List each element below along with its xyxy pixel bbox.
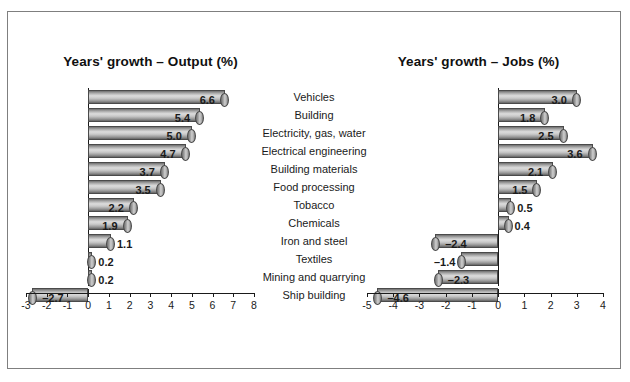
bar: 2.1 bbox=[498, 162, 553, 176]
axis-rule bbox=[26, 293, 254, 294]
bar: 3.0 bbox=[498, 90, 577, 104]
axis-tick-label: -3 bbox=[407, 299, 431, 311]
category-label: Building bbox=[256, 106, 372, 124]
bar-end-cap bbox=[434, 273, 443, 287]
bar-end-cap bbox=[457, 255, 466, 269]
bar: 3.5 bbox=[88, 180, 161, 194]
bar: 3.6 bbox=[498, 144, 592, 158]
category-label-column: VehiclesBuildingElectricity, gas, waterE… bbox=[256, 88, 372, 286]
bar: 0.2 bbox=[88, 252, 92, 266]
bar: 0.2 bbox=[88, 270, 92, 284]
category-label: Building materials bbox=[256, 160, 372, 178]
bar-end-cap bbox=[431, 237, 440, 251]
bar: –2.4 bbox=[435, 234, 498, 248]
axis-rule bbox=[367, 293, 603, 294]
bar: 5.4 bbox=[88, 108, 200, 122]
bar: 1.9 bbox=[88, 216, 127, 230]
bar-end-cap bbox=[87, 255, 96, 269]
axis-tick bbox=[192, 293, 193, 297]
axis-tick bbox=[603, 293, 604, 297]
bar-end-cap bbox=[220, 93, 229, 107]
figure-frame: Years' growth – Output (%) 6.65.45.04.73… bbox=[7, 11, 621, 369]
bar: 3.7 bbox=[88, 162, 165, 176]
category-label: Ship building bbox=[256, 286, 372, 304]
axis-tick bbox=[524, 293, 525, 297]
bar-end-cap bbox=[506, 201, 515, 215]
axis-tick-label: 0 bbox=[486, 299, 510, 311]
axis-tick-label: -2 bbox=[434, 299, 458, 311]
bar-end-cap bbox=[156, 183, 165, 197]
bar-end-cap bbox=[106, 237, 115, 251]
bar: 2.5 bbox=[498, 126, 564, 140]
bar-end-cap bbox=[160, 165, 169, 179]
bar: 0.4 bbox=[498, 216, 508, 230]
axis-tick bbox=[47, 293, 48, 297]
axis-tick-label: 4 bbox=[591, 299, 615, 311]
bar-end-cap bbox=[548, 165, 557, 179]
category-label: Food processing bbox=[256, 178, 372, 196]
category-label: Tobacco bbox=[256, 196, 372, 214]
bar: –2.3 bbox=[438, 270, 498, 284]
bar-end-cap bbox=[195, 111, 204, 125]
axis-tick bbox=[233, 293, 234, 297]
axis-tick bbox=[254, 293, 255, 297]
bar: 1.5 bbox=[498, 180, 537, 194]
category-label: Textiles bbox=[256, 250, 372, 268]
chart-title-output: Years' growth – Output (%) bbox=[8, 54, 313, 69]
bar-end-cap bbox=[532, 183, 541, 197]
axis-tick bbox=[109, 293, 110, 297]
bar-end-cap bbox=[540, 111, 549, 125]
axis-tick bbox=[446, 293, 447, 297]
category-label: Chemicals bbox=[256, 214, 372, 232]
bar: 6.6 bbox=[88, 90, 225, 104]
axis-tick bbox=[213, 293, 214, 297]
bar-end-cap bbox=[129, 201, 138, 215]
axis-tick bbox=[551, 293, 552, 297]
bar-end-cap bbox=[87, 273, 96, 287]
axis-tick bbox=[67, 293, 68, 297]
bar: 1.8 bbox=[498, 108, 545, 122]
category-label: Electricity, gas, water bbox=[256, 124, 372, 142]
bar-end-cap bbox=[187, 129, 196, 143]
axis-tick bbox=[171, 293, 172, 297]
axis-tick-label: 2 bbox=[539, 299, 563, 311]
bar: –1.4 bbox=[461, 252, 498, 266]
bar-end-cap bbox=[588, 147, 597, 161]
bar-end-cap bbox=[559, 129, 568, 143]
bar: 4.7 bbox=[88, 144, 185, 158]
axis-tick bbox=[472, 293, 473, 297]
axis-tick bbox=[419, 293, 420, 297]
axis-tick-label: 3 bbox=[565, 299, 589, 311]
axis-tick-label: -4 bbox=[381, 299, 405, 311]
axis-tick bbox=[577, 293, 578, 297]
bar: 5.0 bbox=[88, 126, 192, 140]
category-label: Vehicles bbox=[256, 88, 372, 106]
bar: 2.2 bbox=[88, 198, 134, 212]
bar-end-cap bbox=[504, 219, 513, 233]
bar-end-cap bbox=[181, 147, 190, 161]
axis-tick bbox=[393, 293, 394, 297]
bar: 1.1 bbox=[88, 234, 111, 248]
axis-tick bbox=[498, 289, 499, 297]
axis-tick-label: 1 bbox=[512, 299, 536, 311]
page-top-crumb bbox=[0, 0, 630, 9]
bar: 0.5 bbox=[498, 198, 511, 212]
bar-end-cap bbox=[123, 219, 132, 233]
chart-title-jobs: Years' growth – Jobs (%) bbox=[313, 54, 622, 69]
category-label: Electrical engineering bbox=[256, 142, 372, 160]
category-label: Mining and quarrying bbox=[256, 268, 372, 286]
category-label: Iron and steel bbox=[256, 232, 372, 250]
axis-tick bbox=[150, 293, 151, 297]
axis-tick bbox=[130, 293, 131, 297]
axis-tick bbox=[26, 293, 27, 297]
axis-tick bbox=[88, 289, 89, 297]
bar-end-cap bbox=[572, 93, 581, 107]
axis-tick-label: -1 bbox=[460, 299, 484, 311]
